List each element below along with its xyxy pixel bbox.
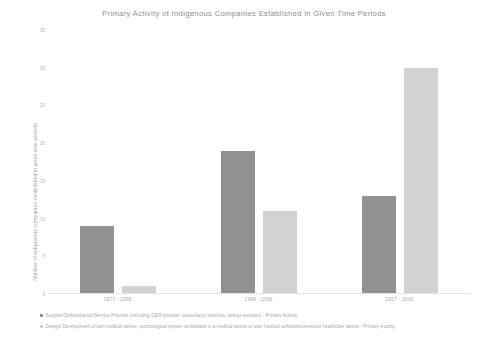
legend-item[interactable]: Design/ Development of own medical devic… (40, 321, 480, 332)
bar (80, 226, 114, 294)
y-axis-tick-label: 10 (27, 216, 45, 221)
legend-swatch-icon (40, 314, 43, 317)
x-axis-line (47, 293, 470, 294)
y-axis-tick-label: 15 (27, 178, 45, 183)
chart-title: Primary Activity of Indigenous Companies… (0, 9, 488, 18)
bar (221, 151, 255, 294)
x-axis-tick-label: 1977 - 1995 (104, 297, 132, 302)
y-axis-tick-label: 25 (27, 103, 45, 108)
x-axis-tick-labels: 1977 - 19951996 - 20062007 - 2016 (47, 297, 470, 307)
bar-chart: Primary Activity of Indigenous Companies… (0, 0, 488, 345)
bar (404, 68, 438, 294)
y-axis-tick-label: 35 (27, 28, 45, 33)
legend-item[interactable]: Supplier/Subcontractor/Service Provider … (40, 310, 480, 321)
y-axis-tick-label: 5 (27, 254, 45, 259)
x-axis-tick-label: 1996 - 2006 (245, 297, 273, 302)
y-axis-tick-label: 0 (27, 292, 45, 297)
bars-layer (47, 30, 470, 294)
chart-legend: Supplier/Subcontractor/Service Provider … (40, 310, 480, 332)
y-axis-tick-label: 20 (27, 141, 45, 146)
y-axis-tick-label: 30 (27, 65, 45, 70)
x-axis-tick-label: 2007 - 2016 (386, 297, 414, 302)
bar (362, 196, 396, 294)
legend-swatch-icon (40, 325, 43, 328)
y-axis-tick-labels: 05101520253035 (27, 30, 45, 294)
plot-area: Number of indigenous companies establish… (47, 30, 470, 294)
bar (263, 211, 297, 294)
legend-label: Supplier/Subcontractor/Service Provider … (46, 313, 298, 319)
legend-label: Design/ Development of own medical devic… (46, 324, 396, 330)
